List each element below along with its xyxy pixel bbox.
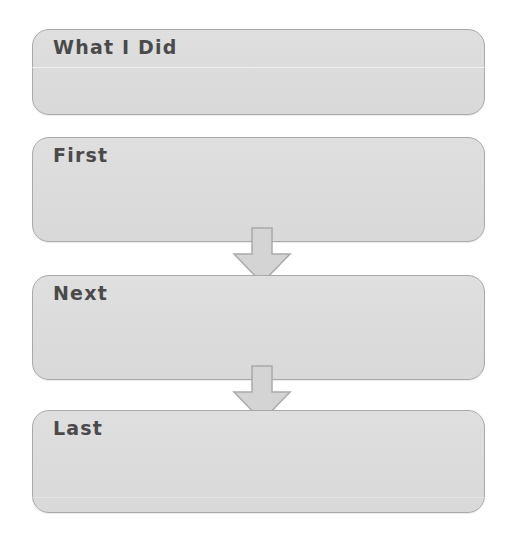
title-box-label: What I Did: [53, 36, 178, 58]
title-box-what-i-did[interactable]: What I Did: [32, 29, 485, 115]
step-box-first[interactable]: First: [32, 137, 485, 242]
step-box-last-writing-area[interactable]: [49, 445, 468, 504]
step-box-first-label: First: [53, 144, 108, 166]
step-box-last[interactable]: Last: [32, 410, 485, 513]
step-box-first-writing-area[interactable]: [49, 172, 468, 233]
step-box-next-label: Next: [53, 282, 108, 304]
graphic-organizer: What I Did First Next Last: [0, 0, 515, 543]
step-box-next[interactable]: Next: [32, 275, 485, 380]
title-box-writing-area[interactable]: [49, 64, 468, 106]
step-box-next-writing-area[interactable]: [49, 310, 468, 371]
step-box-last-label: Last: [53, 417, 103, 439]
